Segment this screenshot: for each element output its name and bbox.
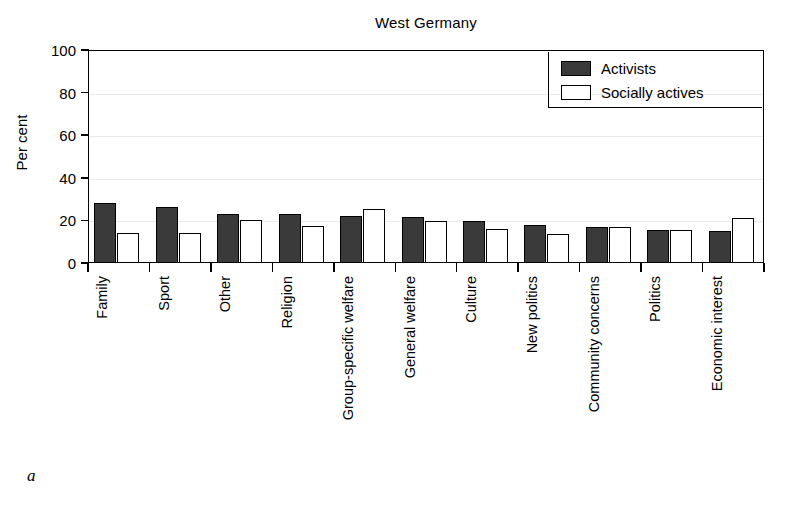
- x-tick-mark: [763, 263, 765, 272]
- chart-title: West Germany: [88, 14, 764, 31]
- x-tick-mark: [87, 263, 89, 272]
- bar-socially-actives: [240, 220, 262, 263]
- x-tick-mark: [395, 263, 397, 272]
- y-tick-label: 40: [36, 170, 76, 185]
- x-tick-mark: [579, 263, 581, 272]
- y-axis-title: Per cent: [13, 93, 30, 193]
- legend-swatch-activists-icon: [561, 61, 591, 76]
- y-tick-label: 60: [36, 128, 76, 143]
- x-tick-label: General welfare: [403, 276, 418, 378]
- x-tick-mark: [210, 263, 212, 272]
- x-tick-label: New politics: [525, 276, 540, 353]
- legend-item-activists: Activists: [561, 58, 656, 78]
- y-tick-mark: [81, 220, 89, 222]
- chart-legend: Activists Socially actives: [548, 52, 762, 108]
- x-tick-label: Religion: [280, 276, 295, 328]
- x-tick-mark: [517, 263, 519, 272]
- bar-activists: [463, 221, 485, 263]
- bar-socially-actives: [670, 230, 692, 263]
- x-tick-label: Sport: [157, 276, 172, 311]
- bar-activists: [340, 216, 362, 263]
- x-tick-label: Group-specific welfare: [341, 276, 356, 420]
- bar-activists: [156, 207, 178, 263]
- x-tick-mark: [640, 263, 642, 272]
- bar-socially-actives: [363, 209, 385, 263]
- bar-activists: [217, 214, 239, 263]
- y-tick-label: 100: [36, 43, 76, 58]
- x-tick-mark: [702, 263, 704, 272]
- x-tick-label: Politics: [648, 276, 663, 322]
- x-tick-label: Other: [218, 276, 233, 312]
- y-tick-mark: [81, 49, 89, 51]
- bar-activists: [524, 225, 546, 263]
- x-tick-mark: [333, 263, 335, 272]
- bar-activists: [709, 231, 731, 263]
- chart-figure: West Germany Per cent 020406080100 Famil…: [0, 0, 790, 517]
- bar-activists: [94, 203, 116, 263]
- x-tick-mark: [456, 263, 458, 272]
- bar-socially-actives: [179, 233, 201, 263]
- y-tick-label: 80: [36, 85, 76, 100]
- x-tick-mark: [272, 263, 274, 272]
- bar-activists: [279, 214, 301, 263]
- bar-socially-actives: [117, 233, 139, 263]
- legend-swatch-socially-actives-icon: [561, 85, 591, 100]
- x-tick-label: Economic interest: [710, 276, 725, 391]
- bar-socially-actives: [609, 227, 631, 263]
- panel-letter: a: [27, 466, 36, 486]
- bar-activists: [402, 217, 424, 263]
- bar-socially-actives: [425, 221, 447, 263]
- y-tick-mark: [81, 177, 89, 179]
- legend-item-socially-actives: Socially actives: [561, 82, 704, 102]
- x-tick-label: Community concerns: [587, 276, 602, 412]
- y-tick-label: 20: [36, 213, 76, 228]
- x-tick-label: Culture: [464, 276, 479, 323]
- y-tick-mark: [81, 92, 89, 94]
- bar-socially-actives: [486, 229, 508, 263]
- x-tick-mark: [149, 263, 151, 272]
- legend-label-socially-actives: Socially actives: [601, 84, 704, 101]
- bar-socially-actives: [547, 234, 569, 263]
- y-tick-mark: [81, 134, 89, 136]
- bar-activists: [647, 230, 669, 263]
- bar-socially-actives: [302, 226, 324, 263]
- x-tick-label: Family: [95, 276, 110, 319]
- y-tick-label: 0: [36, 256, 76, 271]
- legend-label-activists: Activists: [601, 60, 656, 77]
- bar-activists: [586, 227, 608, 263]
- bar-socially-actives: [732, 218, 754, 263]
